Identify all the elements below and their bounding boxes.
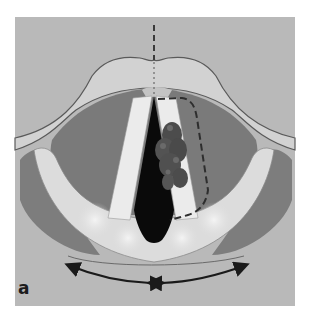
larynx-diagram: [0, 0, 312, 318]
arytenoid-glow: [77, 202, 113, 238]
arytenoid-glow: [196, 202, 232, 238]
arytenoid-glow: [166, 222, 198, 254]
panel-label: a: [18, 278, 29, 298]
